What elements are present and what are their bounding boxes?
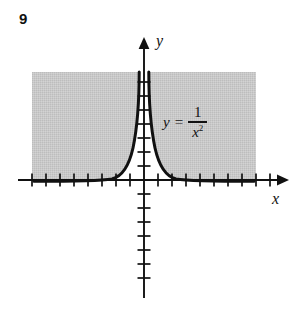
- x-axis-label: x: [272, 190, 279, 208]
- coordinate-plot: [0, 0, 297, 312]
- equation-lhs: y: [163, 114, 170, 131]
- equation-numerator: 1: [190, 105, 206, 121]
- y-axis-label: y: [156, 32, 163, 50]
- equation-denominator: x2: [188, 123, 207, 140]
- equation-operator: =: [173, 114, 185, 131]
- equation-fraction: 1 x2: [188, 105, 207, 140]
- figure-container: 9: [0, 0, 297, 312]
- problem-number: 9: [19, 10, 27, 27]
- equation-denominator-exponent: 2: [199, 123, 204, 133]
- equation-label: y = 1 x2: [163, 105, 207, 140]
- equation-denominator-base: x: [192, 124, 199, 140]
